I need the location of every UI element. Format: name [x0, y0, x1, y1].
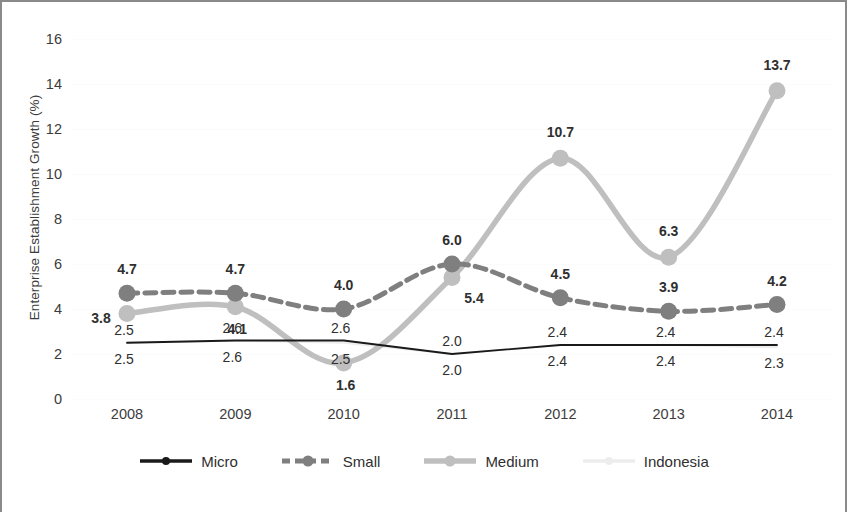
data-label: 6.3: [659, 223, 678, 239]
data-label: 3.9: [659, 279, 678, 295]
data-label: 2.5: [114, 351, 133, 367]
data-label: 2.6: [331, 320, 350, 336]
data-point-marker: [660, 303, 677, 320]
y-tick-label: 4: [54, 301, 62, 317]
data-label: 10.7: [547, 124, 574, 140]
legend-label: Indonesia: [644, 453, 709, 470]
y-tick-label: 8: [54, 211, 62, 227]
data-point-marker: [552, 150, 569, 167]
legend-swatch-medium-icon: [422, 452, 478, 470]
data-point-marker: [227, 285, 244, 302]
legend-label: Medium: [485, 453, 538, 470]
plot-area: 0246810121416 2.52.62.62.02.42.42.44.74.…: [72, 39, 832, 399]
legend-item-indonesia[interactable]: Indonesia: [581, 452, 709, 470]
data-label: 3.8: [91, 310, 110, 326]
data-label: 2.3: [764, 355, 783, 371]
legend-swatch-small-icon: [280, 452, 336, 470]
x-tick-label: 2013: [653, 406, 685, 422]
data-point-marker: [769, 82, 786, 99]
data-point-marker: [335, 301, 352, 318]
data-label: 6.0: [442, 232, 461, 248]
legend-item-micro[interactable]: Micro: [138, 452, 238, 470]
data-label: 5.4: [464, 290, 483, 306]
y-axis-title: Enterprise Establishment Growth (%): [27, 58, 42, 358]
legend-label: Small: [343, 453, 381, 470]
data-label: 4.7: [226, 261, 245, 277]
data-label: 4.1: [228, 321, 247, 337]
legend-swatch-indonesia-icon: [581, 452, 637, 470]
data-label: 2.4: [656, 324, 675, 340]
data-point-marker: [769, 296, 786, 313]
x-tick-label: 2012: [544, 406, 576, 422]
data-point-marker: [660, 249, 677, 266]
x-tick-label: 2014: [761, 406, 793, 422]
x-tick-label: 2008: [111, 406, 143, 422]
series-medium: [119, 82, 786, 371]
data-label: 2.0: [442, 333, 461, 349]
y-tick-label: 14: [46, 76, 62, 92]
data-label: 4.2: [767, 273, 786, 289]
legend-label: Micro: [201, 453, 238, 470]
data-label: 4.5: [551, 266, 570, 282]
data-point-marker: [119, 285, 136, 302]
y-tick-label: 12: [46, 121, 62, 137]
data-point-marker: [444, 256, 461, 273]
data-label: 4.0: [334, 277, 353, 293]
data-label: 2.5: [331, 351, 350, 367]
data-point-marker: [119, 305, 136, 322]
data-label: 2.4: [548, 353, 567, 369]
legend-item-small[interactable]: Small: [280, 452, 381, 470]
x-tick-label: 2009: [219, 406, 251, 422]
y-tick-label: 16: [46, 31, 62, 47]
data-label: 2.4: [764, 324, 783, 340]
gridline: [72, 399, 832, 400]
data-label: 13.7: [763, 57, 790, 73]
data-label: 2.5: [114, 322, 133, 338]
y-tick-label: 10: [46, 166, 62, 182]
x-tick-label: 2011: [436, 406, 467, 422]
chart-legend: MicroSmallMediumIndonesia: [2, 452, 845, 470]
data-label: 2.6: [223, 349, 242, 365]
data-label: 1.6: [336, 377, 355, 393]
chart-figure: Enterprise Establishment Growth (%) 0246…: [0, 0, 847, 512]
data-label: 2.4: [656, 353, 675, 369]
x-tick-label: 2010: [328, 406, 360, 422]
y-tick-label: 2: [54, 346, 62, 362]
data-label: 4.7: [117, 261, 136, 277]
y-tick-label: 6: [54, 256, 62, 272]
data-label: 2.4: [548, 324, 567, 340]
data-label: 2.0: [442, 362, 461, 378]
y-tick-label: 0: [54, 391, 62, 407]
legend-swatch-micro-icon: [138, 452, 194, 470]
data-point-marker: [552, 289, 569, 306]
legend-item-medium[interactable]: Medium: [422, 452, 538, 470]
series-small: [119, 256, 786, 320]
